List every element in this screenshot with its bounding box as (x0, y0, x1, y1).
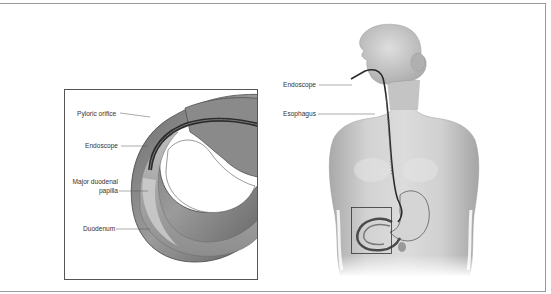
body-figure-illustration (329, 24, 490, 277)
endoscopy-illustration (0, 0, 551, 294)
inset-duodenum-illustration (131, 94, 270, 262)
label-endoscope-inset: Endoscope (85, 142, 118, 150)
label-endoscope-body: Endoscope (283, 81, 316, 89)
label-major-duodenal-line2: papilla (68, 187, 118, 195)
body-leader-lines (318, 85, 375, 114)
label-pyloric-orifice: Pyloric orifice (77, 110, 116, 118)
label-esophagus: Esophagus (283, 110, 316, 118)
label-major-duodenal-line1: Major duodenal (68, 178, 118, 186)
label-duodenum: Duodenum (83, 225, 115, 233)
